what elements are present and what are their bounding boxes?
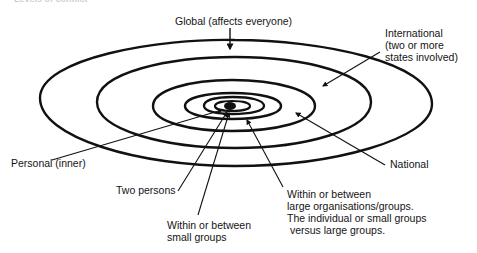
ring-personal-center — [224, 102, 236, 110]
label-global: Global (affects everyone) — [175, 15, 292, 27]
label-two-persons: Two persons — [116, 184, 176, 196]
label-international: International (two or more states involv… — [385, 27, 458, 63]
label-national: National — [390, 158, 429, 170]
arrow-two-persons — [178, 112, 227, 191]
arrow-personal — [52, 110, 222, 160]
label-large-groups: Within or between large organisations/gr… — [287, 188, 426, 236]
label-personal: Personal (inner) — [11, 157, 86, 169]
label-small-groups: Within or between small groups — [167, 219, 251, 243]
arrow-national — [296, 113, 385, 165]
